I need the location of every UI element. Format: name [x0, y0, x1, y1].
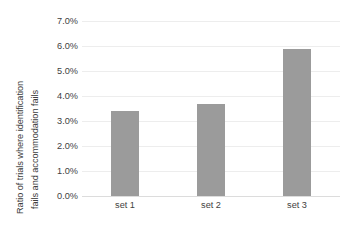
x-tick-label: set 1 — [85, 200, 165, 210]
gridline — [82, 21, 340, 22]
gridline — [82, 46, 340, 47]
x-axis-tick-labels: set 1 set 2 set 3 — [0, 200, 349, 220]
x-tick-label: set 3 — [257, 200, 337, 210]
x-tick-label: set 2 — [171, 200, 251, 210]
y-tick-label: 1.0% — [38, 166, 78, 176]
bar-chart: Ratio of trials where identification fai… — [0, 0, 349, 228]
plot-area — [82, 21, 340, 196]
y-tick-label: 4.0% — [38, 91, 78, 101]
y-tick-label: 6.0% — [38, 41, 78, 51]
bar-set-1 — [111, 111, 139, 196]
y-tick-label: 7.0% — [38, 16, 78, 26]
y-tick-label: 5.0% — [38, 66, 78, 76]
bar-set-3 — [283, 49, 311, 197]
y-tick-label: 3.0% — [38, 116, 78, 126]
y-tick-label: 2.0% — [38, 141, 78, 151]
axis-baseline — [82, 196, 340, 197]
bar-set-2 — [197, 104, 225, 197]
